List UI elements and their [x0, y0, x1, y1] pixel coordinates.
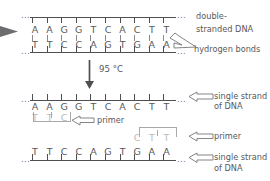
duplex-top-backbone — [30, 17, 176, 18]
dna-base: G — [73, 102, 85, 112]
dna-base: T — [87, 25, 99, 35]
dna-base: T — [117, 147, 129, 157]
backbone-tick — [163, 17, 164, 23]
dna-base: A — [146, 147, 158, 157]
single-strand-top-pointer-icon — [189, 92, 215, 104]
dna-base: C — [131, 133, 143, 143]
backbone-tick — [163, 94, 164, 100]
dna-base: T — [87, 102, 99, 112]
single-bottom-left-ellipsis: ... — [21, 157, 30, 163]
dna-base: G — [102, 40, 114, 50]
denature-temperature: 95 °C — [99, 64, 123, 75]
dna-base: C — [58, 147, 70, 157]
pcr-diagram: ... ... ... ... AAGGTCACTT TTCCAGTGAA do… — [0, 0, 270, 181]
dna-base: T — [29, 40, 41, 50]
dna-base: A — [44, 102, 56, 112]
dna-base: A — [44, 25, 56, 35]
backbone-tick — [105, 94, 106, 100]
label-double-stranded-dna-line2: stranded DNA — [196, 24, 253, 35]
hydrogen-bond — [149, 35, 150, 41]
label-single-strand-top-line1: single strand — [214, 91, 267, 102]
primer-top-bracket-mid-tick — [51, 112, 52, 118]
label-hydrogen-bonds: hydrogen bonds — [194, 44, 260, 55]
dna-base: T — [146, 102, 158, 112]
left-pointer-arrow-icon — [0, 24, 24, 40]
single-top-right-ellipsis: ... — [177, 97, 186, 103]
hydrogen-bond — [61, 35, 62, 41]
backbone-tick — [134, 94, 135, 100]
dna-base: A — [29, 25, 41, 35]
single-strand-bottom-pointer-icon — [189, 153, 215, 165]
dna-base: A — [146, 40, 158, 50]
dna-base: T — [29, 147, 41, 157]
dna-base: T — [44, 147, 56, 157]
backbone-tick — [120, 94, 121, 100]
dna-base: A — [117, 102, 129, 112]
dna-base: G — [73, 25, 85, 35]
primer-top-pointer-icon — [72, 116, 96, 127]
backbone-tick — [47, 17, 48, 23]
backbone-tick — [134, 17, 135, 23]
dna-base: C — [73, 40, 85, 50]
backbone-tick — [90, 17, 91, 23]
dna-base: G — [58, 102, 70, 112]
hydrogen-bond — [120, 35, 121, 41]
single-bottom-backbone — [30, 160, 176, 161]
backbone-tick — [149, 94, 150, 100]
backbone-tick — [120, 17, 121, 23]
hydrogen-bond — [47, 35, 48, 41]
hydrogen-bond — [163, 35, 164, 41]
primer-bottom-pointer-icon — [189, 132, 215, 143]
dna-base: T — [44, 40, 56, 50]
dna-base: G — [102, 147, 114, 157]
dna-base: C — [102, 102, 114, 112]
backbone-tick — [90, 94, 91, 100]
dna-base: T — [146, 25, 158, 35]
label-single-strand-bottom-line1: single strand — [214, 152, 267, 163]
label-single-strand-top-line2: of DNA — [214, 101, 243, 112]
dna-base: A — [117, 25, 129, 35]
single-bottom-right-ellipsis: ... — [177, 157, 186, 163]
duplex-top-right-ellipsis: ... — [177, 13, 186, 19]
dna-base: T — [160, 133, 172, 143]
label-primer-bottom: primer — [214, 131, 241, 142]
dna-base: A — [87, 40, 99, 50]
backbone-tick — [76, 94, 77, 100]
backbone-tick — [32, 94, 33, 100]
backbone-tick — [61, 17, 62, 23]
duplex-top-left-ellipsis: ... — [21, 13, 30, 19]
primer-top-bracket — [33, 112, 71, 122]
down-arrow-icon — [84, 60, 98, 90]
hydrogen-bond — [76, 35, 77, 41]
dna-base: G — [58, 25, 70, 35]
label-double-stranded-dna-line1: double- — [196, 11, 227, 22]
dna-base: A — [29, 102, 41, 112]
dna-base: G — [131, 147, 143, 157]
dna-base: T — [117, 40, 129, 50]
dna-base: C — [131, 25, 143, 35]
hydrogen-bond — [105, 35, 106, 41]
dna-base: C — [73, 147, 85, 157]
backbone-tick — [47, 94, 48, 100]
backbone-tick — [76, 17, 77, 23]
dna-base: A — [87, 147, 99, 157]
hydrogen-bond — [32, 35, 33, 41]
dna-base: C — [58, 40, 70, 50]
label-single-strand-bottom-line2: of DNA — [214, 163, 243, 174]
backbone-tick — [61, 94, 62, 100]
dna-base: T — [160, 102, 172, 112]
duplex-bottom-backbone — [30, 52, 176, 53]
hydrogen-bonds-pointer-icon — [170, 33, 198, 51]
backbone-tick — [149, 17, 150, 23]
backbone-tick — [105, 17, 106, 23]
dna-base: C — [131, 102, 143, 112]
label-primer-top: primer — [97, 115, 124, 126]
dna-base: T — [146, 133, 158, 143]
dna-base: C — [102, 25, 114, 35]
hydrogen-bond — [134, 35, 135, 41]
backbone-tick — [32, 17, 33, 23]
dna-base: G — [131, 40, 143, 50]
dna-base: A — [160, 147, 172, 157]
hydrogen-bond — [90, 35, 91, 41]
